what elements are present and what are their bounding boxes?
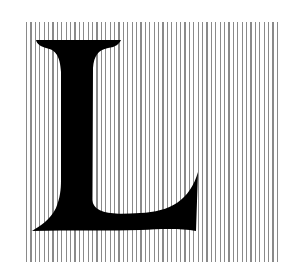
image-canvas: L	[0, 0, 284, 268]
letter-l-glyph	[0, 0, 284, 268]
